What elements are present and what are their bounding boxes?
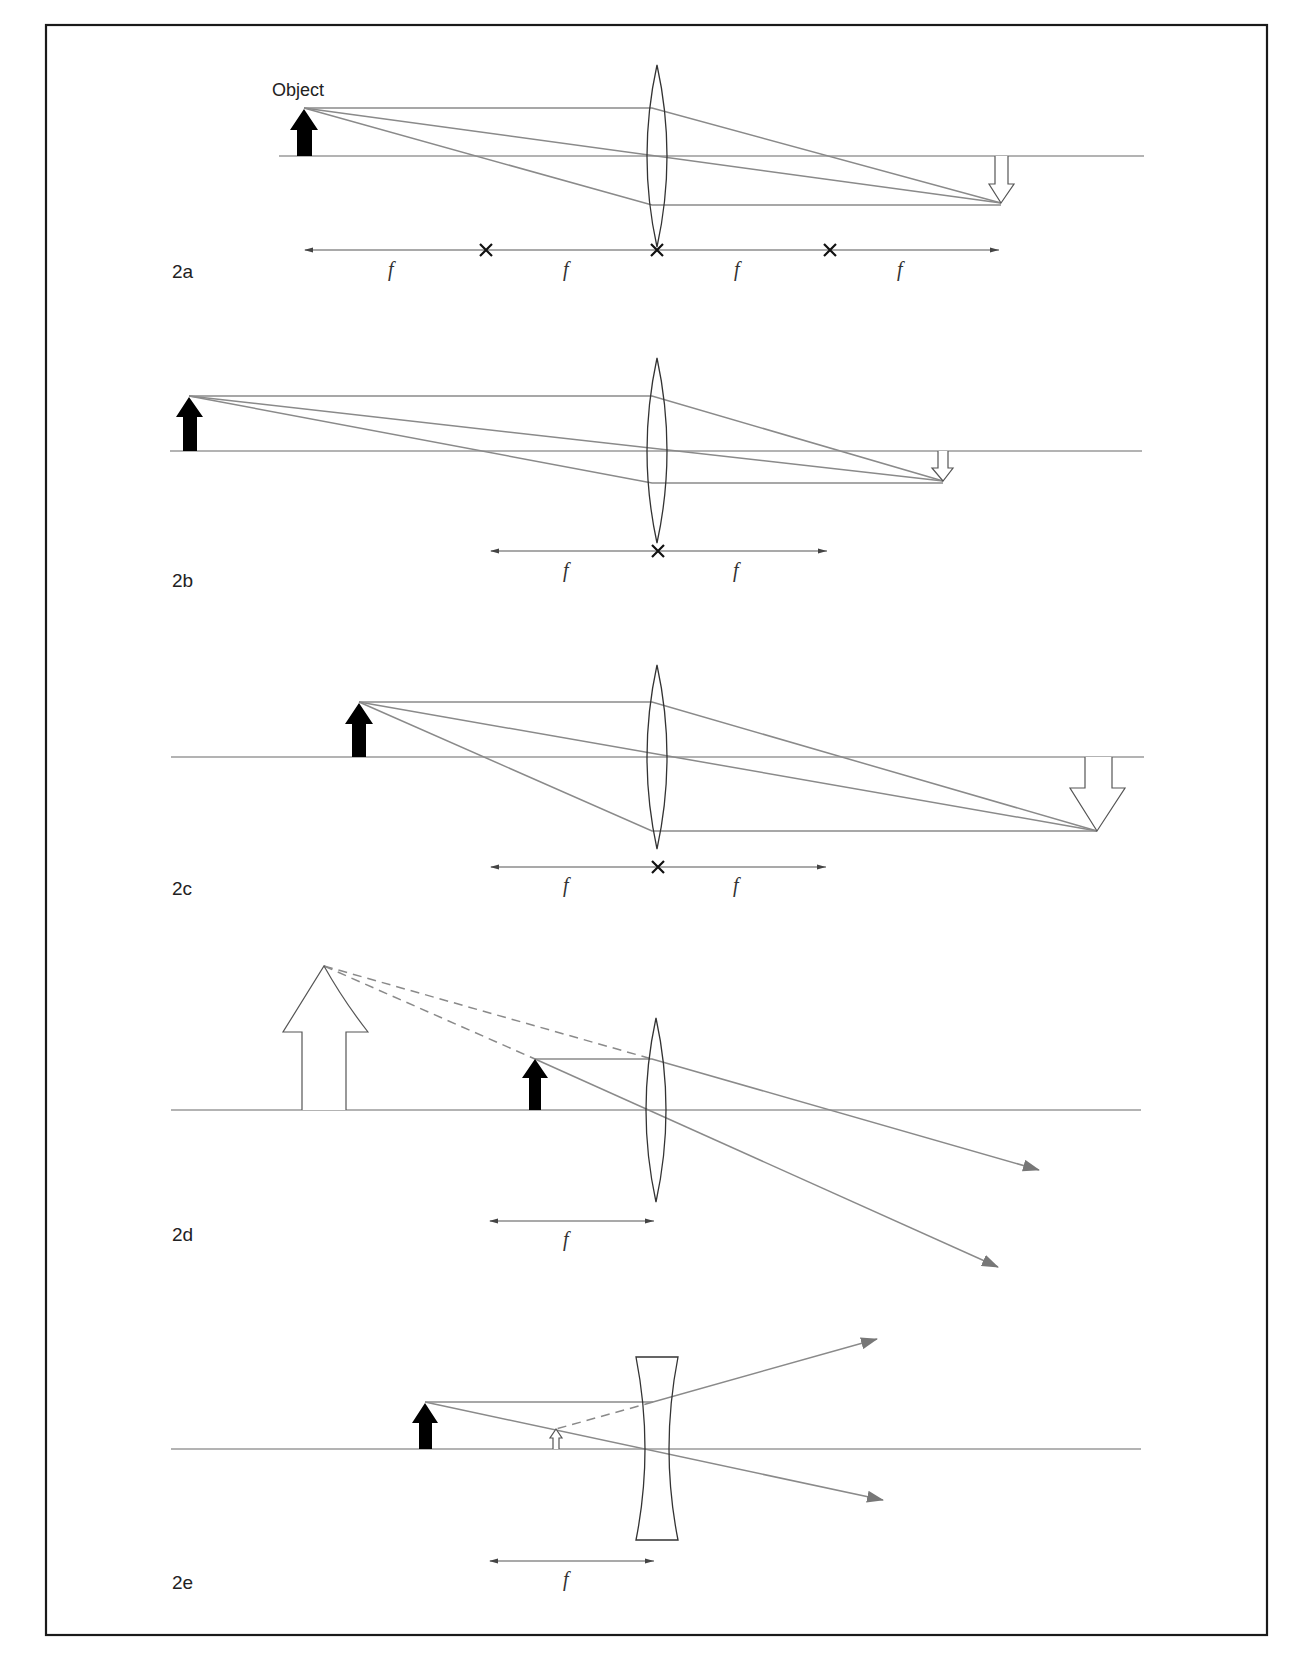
image-arrow-icon xyxy=(932,451,953,481)
virtual-ray-extension xyxy=(324,966,652,1059)
image-arrow-icon xyxy=(1070,757,1125,831)
central-ray xyxy=(425,1402,883,1500)
panel-label: 2a xyxy=(172,261,194,282)
image-arrow-icon xyxy=(989,156,1014,203)
object-label: Object xyxy=(272,80,324,100)
f-label: f xyxy=(563,1568,571,1591)
central-ray xyxy=(189,396,943,481)
lens-ray-diagram-figure: Object f f f f 2a f f 2b xyxy=(0,0,1296,1670)
virtual-image-arrow-icon xyxy=(283,966,368,1110)
central-ray xyxy=(535,1059,998,1267)
object-arrow-icon xyxy=(290,109,318,156)
panel-2b: f f 2b xyxy=(170,358,1142,591)
object-arrow-icon xyxy=(176,397,203,451)
central-ray xyxy=(359,702,1097,831)
virtual-image-arrow-icon xyxy=(550,1429,562,1449)
parallel-ray xyxy=(425,1339,877,1402)
panel-2c: f f 2c xyxy=(171,665,1144,899)
panel-label: 2d xyxy=(172,1224,193,1245)
panel-label: 2c xyxy=(172,878,192,899)
f-label: f xyxy=(388,258,396,281)
f-label: f xyxy=(563,559,571,582)
figure-frame xyxy=(46,25,1267,1635)
f-label: f xyxy=(897,258,905,281)
object-arrow-icon xyxy=(412,1403,438,1449)
virtual-ray-extension xyxy=(556,1402,653,1429)
f-label: f xyxy=(563,258,571,281)
panel-2e: f 2e xyxy=(171,1339,1141,1593)
f-label: f xyxy=(563,1228,571,1251)
f-label: f xyxy=(734,258,742,281)
parallel-ray xyxy=(535,1059,1039,1170)
object-arrow-icon xyxy=(522,1059,548,1110)
f-label: f xyxy=(733,559,741,582)
object-arrow-icon xyxy=(345,703,373,757)
f-label: f xyxy=(733,874,741,897)
panel-2a: Object f f f f 2a xyxy=(172,65,1144,282)
panel-2d: f 2d xyxy=(171,966,1141,1267)
panel-label: 2e xyxy=(172,1572,193,1593)
virtual-ray-extension xyxy=(324,966,535,1059)
panel-label: 2b xyxy=(172,570,193,591)
f-label: f xyxy=(563,874,571,897)
